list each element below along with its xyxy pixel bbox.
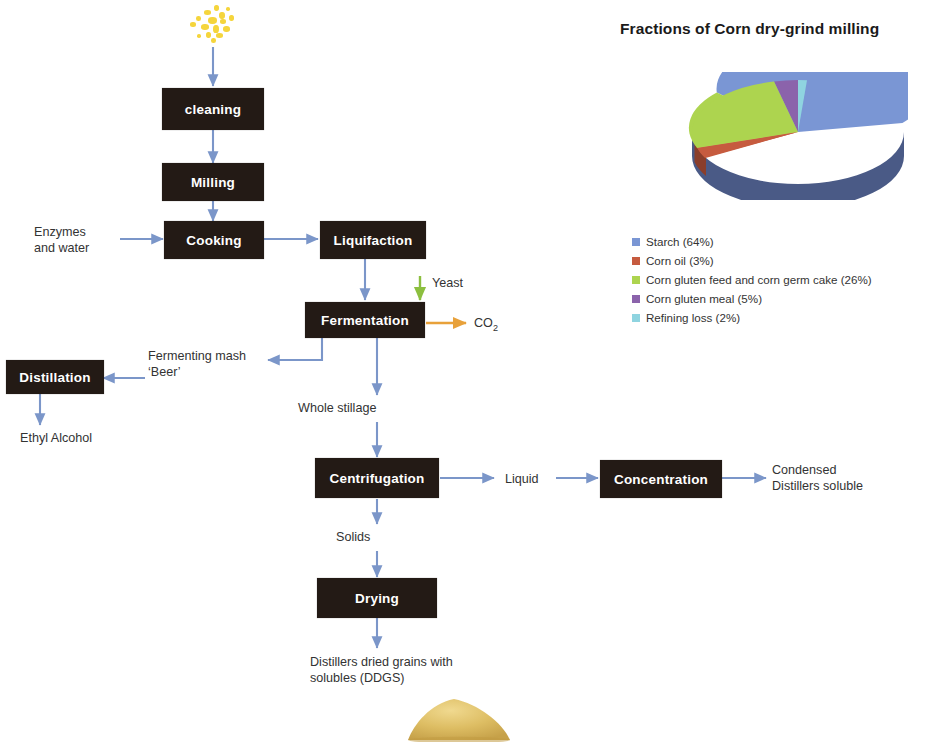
pie-chart-legend: Starch (64%) Corn oil (3%) Corn gluten f… xyxy=(632,232,872,327)
box-distillation-label: Distillation xyxy=(19,370,90,385)
legend-swatch-refining-loss xyxy=(632,314,640,322)
label-enzymes-and-water: Enzymes and water xyxy=(34,224,134,256)
label-condensed-distillers-soluble: Condensed Distillers soluble xyxy=(772,462,922,494)
label-liquid: Liquid xyxy=(505,471,539,487)
box-liquifaction[interactable]: Liquifaction xyxy=(320,221,426,259)
label-ddgs: Distillers dried grains with solubles (D… xyxy=(310,654,510,686)
box-fermentation[interactable]: Fermentation xyxy=(305,302,425,338)
legend-label-corn-oil: Corn oil (3%) xyxy=(646,254,714,267)
legend-label-corn-gluten-feed: Corn gluten feed and corn germ cake (26%… xyxy=(646,273,872,286)
pie-chart-panel: Fractions of Corn dry-grind milling xyxy=(620,0,936,350)
legend-item-refining-loss: Refining loss (2%) xyxy=(632,308,872,327)
box-cleaning[interactable]: cleaning xyxy=(162,88,264,130)
box-drying[interactable]: Drying xyxy=(317,578,437,618)
box-fermentation-label: Fermentation xyxy=(321,313,409,328)
legend-label-starch: Starch (64%) xyxy=(646,235,714,248)
box-cooking[interactable]: Cooking xyxy=(164,221,264,259)
corn-kernels-image xyxy=(186,4,242,44)
box-cooking-label: Cooking xyxy=(186,233,241,248)
legend-item-corn-gluten-feed: Corn gluten feed and corn germ cake (26%… xyxy=(632,270,872,289)
box-concentration[interactable]: Concentration xyxy=(600,460,722,498)
legend-swatch-corn-gluten-meal xyxy=(632,295,640,303)
box-concentration-label: Concentration xyxy=(614,472,708,487)
legend-item-starch: Starch (64%) xyxy=(632,232,872,251)
box-drying-label: Drying xyxy=(355,591,399,606)
box-cleaning-label: cleaning xyxy=(185,102,241,117)
legend-item-corn-gluten-meal: Corn gluten meal (5%) xyxy=(632,289,872,308)
label-co2-subscript: 2 xyxy=(493,323,498,333)
box-liquifaction-label: Liquifaction xyxy=(334,233,413,248)
diagram-canvas: cleaning Milling Cooking Liquifaction Fe… xyxy=(0,0,936,742)
label-solids: Solids xyxy=(336,529,370,545)
box-milling[interactable]: Milling xyxy=(162,163,264,201)
box-centrifugation-label: Centrifugation xyxy=(329,471,424,486)
legend-label-refining-loss: Refining loss (2%) xyxy=(646,311,740,324)
label-whole-stillage: Whole stillage xyxy=(298,400,376,416)
pie-chart-title: Fractions of Corn dry-grind milling xyxy=(620,20,879,38)
label-yeast: Yeast xyxy=(432,275,463,291)
legend-swatch-corn-oil xyxy=(632,257,640,265)
label-fermenting-mash: Fermenting mash ‘Beer’ xyxy=(148,348,278,380)
pie-chart-graphic xyxy=(688,72,908,200)
box-centrifugation[interactable]: Centrifugation xyxy=(315,458,439,498)
legend-item-corn-oil: Corn oil (3%) xyxy=(632,251,872,270)
legend-label-corn-gluten-meal: Corn gluten meal (5%) xyxy=(646,292,762,305)
ddgs-pile-image xyxy=(404,694,514,742)
box-milling-label: Milling xyxy=(191,175,235,190)
label-co2: CO2 xyxy=(474,315,498,334)
box-distillation[interactable]: Distillation xyxy=(6,360,104,394)
legend-swatch-starch xyxy=(632,238,640,246)
label-co2-text: CO xyxy=(474,316,493,330)
label-ethyl-alcohol: Ethyl Alcohol xyxy=(20,430,92,446)
legend-swatch-corn-gluten-feed xyxy=(632,276,640,284)
